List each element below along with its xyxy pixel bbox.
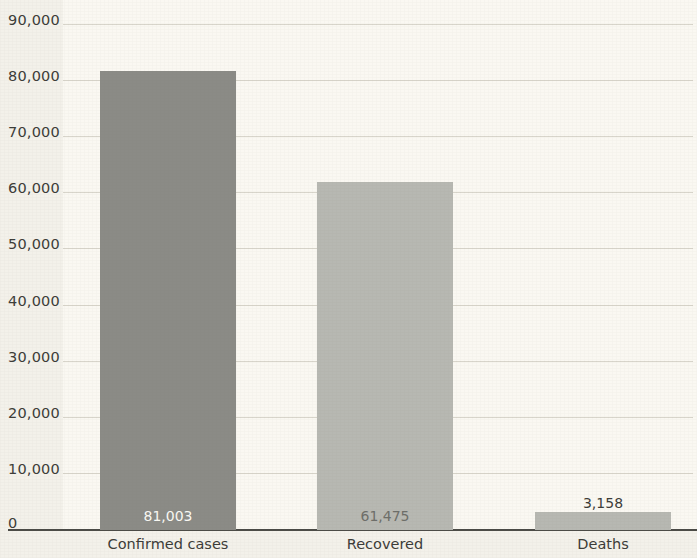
gridline-90000 <box>63 24 693 25</box>
bar-confirmed-cases <box>100 71 236 530</box>
y-axis-tick-label: 0 <box>8 516 17 531</box>
y-axis-tick-label: 90,000 <box>8 13 60 28</box>
bar-chart: 90,000 80,000 70,000 60,000 50,000 40,00… <box>0 0 697 558</box>
bar-value-confirmed-cases: 81,003 <box>100 509 236 523</box>
bar-value-recovered: 61,475 <box>317 509 453 523</box>
x-axis-category-label-recovered: Recovered <box>305 537 465 552</box>
y-axis-tick-label: 10,000 <box>8 462 60 477</box>
y-axis-tick-label: 20,000 <box>8 406 60 421</box>
y-axis-tick-label: 60,000 <box>8 181 60 196</box>
bar-value-deaths: 3,158 <box>535 496 671 510</box>
x-axis-category-label-confirmed-cases: Confirmed cases <box>88 537 248 552</box>
x-axis-category-label-deaths: Deaths <box>523 537 683 552</box>
y-axis-tick-label: 30,000 <box>8 350 60 365</box>
y-axis-tick-label: 70,000 <box>8 125 60 140</box>
bar-deaths <box>535 512 671 530</box>
y-axis-tick-label: 80,000 <box>8 69 60 84</box>
y-axis-tick-label: 40,000 <box>8 294 60 309</box>
bar-recovered <box>317 182 453 530</box>
y-axis-tick-label: 50,000 <box>8 237 60 252</box>
